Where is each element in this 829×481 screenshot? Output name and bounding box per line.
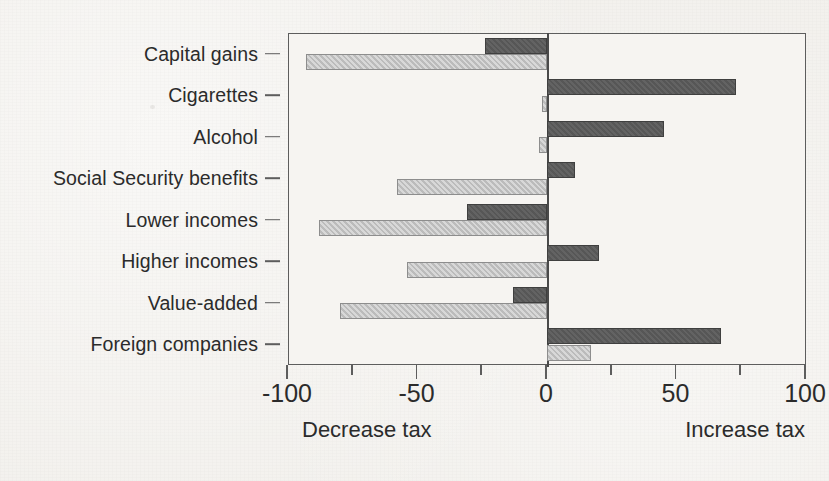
bar-light-capital-gains <box>306 54 547 70</box>
x-axis-tick-0 <box>545 365 547 379</box>
y-axis-tick <box>265 53 280 55</box>
bar-row <box>289 283 805 325</box>
bar-row <box>289 325 805 367</box>
y-axis-tick <box>265 177 280 179</box>
bar-light-foreign-companies <box>547 345 591 361</box>
y-axis-label-capital-gains: Capital gains <box>144 42 258 65</box>
increase-tax-caption: Increase tax <box>685 417 805 443</box>
bar-row <box>289 159 805 201</box>
x-axis-tick-50 <box>675 365 677 379</box>
y-axis-label-cigarettes: Cigarettes <box>168 84 258 107</box>
x-axis-minor-tick--25 <box>480 365 482 375</box>
y-axis-tick <box>265 260 280 262</box>
x-axis-tick-group <box>288 365 806 379</box>
chart-page: Capital gainsCigarettesAlcoholSocial Sec… <box>0 0 829 481</box>
y-axis-label-higher-incomes: Higher incomes <box>121 250 258 273</box>
y-axis-tick <box>265 219 280 221</box>
bar-light-cigarettes <box>542 96 547 112</box>
x-axis-tick-label--50: -50 <box>398 379 434 408</box>
x-axis-tick-label-50: 50 <box>662 379 690 408</box>
bar-light-lower-incomes <box>319 220 547 236</box>
bar-row <box>289 76 805 118</box>
bar-row <box>289 117 805 159</box>
bar-dark-alcohol <box>547 121 664 137</box>
bar-dark-lower-incomes <box>467 204 547 220</box>
bar-dark-social-security-benefits <box>547 162 575 178</box>
y-axis-tick <box>265 136 280 138</box>
x-axis-tick-label-100: 100 <box>784 379 826 408</box>
y-axis-tick <box>265 343 280 345</box>
bar-row <box>289 34 805 76</box>
bar-light-value-added <box>340 303 547 319</box>
decrease-tax-caption: Decrease tax <box>302 417 432 443</box>
y-axis-label-social-security-benefits: Social Security benefits <box>53 167 258 190</box>
x-axis-tick-label--100: -100 <box>262 379 312 408</box>
x-axis-tick--50 <box>416 365 418 379</box>
bar-light-social-security-benefits <box>397 179 547 195</box>
x-axis-tick-label-0: 0 <box>539 379 553 408</box>
bar-dark-cigarettes <box>547 79 736 95</box>
bar-dark-value-added <box>513 287 547 303</box>
y-axis-tick <box>265 302 280 304</box>
y-axis-label-lower-incomes: Lower incomes <box>126 208 258 231</box>
plot-area <box>288 33 806 365</box>
y-axis-label-foreign-companies: Foreign companies <box>90 333 258 356</box>
y-axis-label-alcohol: Alcohol <box>193 125 258 148</box>
bar-dark-higher-incomes <box>547 245 599 261</box>
bar-dark-foreign-companies <box>547 328 721 344</box>
bar-row <box>289 200 805 242</box>
bar-row <box>289 242 805 284</box>
y-axis-label-value-added: Value-added <box>148 291 258 314</box>
y-axis-label-group: Capital gainsCigarettesAlcoholSocial Sec… <box>0 33 280 365</box>
x-axis-minor-tick--75 <box>351 365 353 375</box>
x-axis-tick-100 <box>804 365 806 379</box>
x-axis-label-group: -100-50050100 <box>0 379 829 413</box>
y-axis-tick <box>265 94 280 96</box>
x-axis-tick--100 <box>286 365 288 379</box>
bar-light-higher-incomes <box>407 262 547 278</box>
bar-dark-capital-gains <box>485 38 547 54</box>
bar-light-alcohol <box>539 137 547 153</box>
x-axis-minor-tick-75 <box>739 365 741 375</box>
x-axis-minor-tick-25 <box>610 365 612 375</box>
axis-caption-group: Decrease tax Increase tax <box>0 417 829 453</box>
